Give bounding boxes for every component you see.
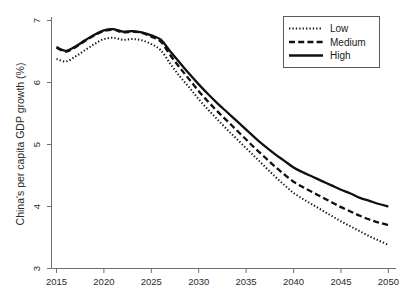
legend-label-high: High	[330, 50, 351, 61]
y-tickmarks	[47, 21, 52, 269]
x-tick-label: 2020	[93, 276, 114, 287]
y-tick-label: 4	[31, 204, 42, 209]
y-tick-label: 7	[31, 18, 42, 23]
legend-label-low: Low	[330, 23, 349, 34]
y-tick-label: 3	[31, 266, 42, 271]
x-tick-labels: 2015 2020 2025 2030 2035 2040 2045 2050	[46, 276, 399, 287]
x-tick-label: 2030	[188, 276, 209, 287]
series-line-low	[57, 38, 389, 245]
x-tick-label: 2040	[283, 276, 304, 287]
x-tick-label: 2045	[330, 276, 351, 287]
x-tick-label: 2050	[378, 276, 399, 287]
x-tick-label: 2035	[236, 276, 257, 287]
x-tickmarks	[57, 269, 389, 274]
y-tick-label: 5	[31, 142, 42, 147]
legend-label-medium: Medium	[330, 37, 366, 48]
x-tick-label: 2025	[141, 276, 162, 287]
line-chart: 7 6 5 4 3 China's per capita GDP growth …	[0, 0, 410, 299]
chart-legend: Low Medium High	[284, 17, 380, 68]
y-tick-labels: 7 6 5 4 3	[31, 18, 42, 271]
x-tick-label: 2015	[46, 276, 67, 287]
y-axis-title: China's per capita GDP growth (%)	[14, 63, 26, 226]
y-tick-label: 6	[31, 80, 42, 85]
chart-figure: 7 6 5 4 3 China's per capita GDP growth …	[0, 0, 410, 299]
